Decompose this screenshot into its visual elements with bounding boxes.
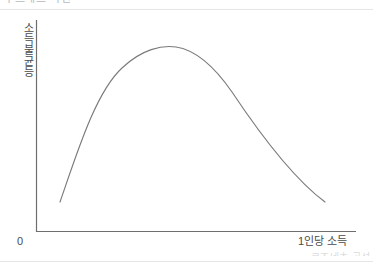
divider-bottom xyxy=(0,261,373,262)
origin-label: 0 xyxy=(17,234,23,248)
kuznets-curve-figure: 쿠즈네츠 곡선 소득불균등 1인당 소득 0 쿠즈네츠 곡선 xyxy=(0,0,373,269)
kuznets-curve-path xyxy=(60,47,325,202)
plot-area xyxy=(0,0,373,269)
figure-caption-bottom-cropped: 쿠즈네츠 곡선 xyxy=(251,248,371,256)
y-axis-title: 소득불균등 xyxy=(12,22,34,77)
x-axis-title: 1인당 소득 xyxy=(298,234,347,248)
